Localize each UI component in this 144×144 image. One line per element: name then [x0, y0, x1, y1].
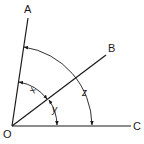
arc-z [24, 47, 92, 125]
diagram-lines [0, 0, 144, 144]
label-angle-z: z [82, 88, 87, 98]
label-C: C [133, 121, 141, 132]
label-B: B [108, 43, 115, 54]
ray-OA [12, 18, 28, 126]
label-O: O [3, 129, 12, 140]
label-A: A [24, 4, 31, 15]
angle-diagram: A B C O x y z [0, 0, 144, 144]
label-angle-y: y [52, 105, 57, 115]
